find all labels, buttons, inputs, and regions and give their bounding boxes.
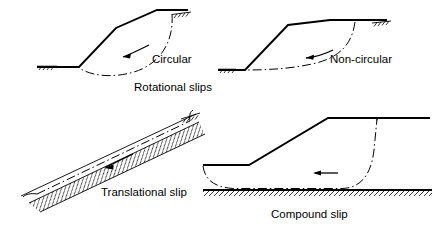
slope-failure-figure: Circular	[0, 0, 437, 231]
translational-bedrock-lower-edge	[40, 134, 205, 212]
non-circular-movement-arrow	[306, 50, 333, 60]
panel-circular: Circular	[37, 10, 192, 76]
panel-non-circular: Non-circular	[218, 20, 392, 73]
compound-ground-profile	[203, 118, 430, 165]
compound-movement-arrow	[313, 170, 338, 175]
non-circular-label: Non-circular	[330, 53, 392, 65]
translational-ground-surface	[21, 114, 196, 196]
panel-compound: Compound slip	[203, 118, 432, 220]
circular-ground-symbol-right	[172, 12, 191, 18]
translational-bedrock-fill	[29, 122, 205, 212]
panel-translational: Translational slip	[21, 110, 205, 212]
translational-slip-plane	[37, 121, 190, 194]
compound-hard-stratum	[203, 190, 432, 196]
non-circular-ground-symbol-right	[372, 21, 391, 27]
circular-ground-symbol-left	[37, 66, 57, 70]
rotational-slips-caption: Rotational slips	[134, 81, 212, 93]
translational-slip-label: Translational slip	[101, 186, 187, 198]
compound-slip-surface	[203, 119, 377, 189]
slope-failure-diagram: Circular	[0, 0, 437, 231]
non-circular-ground-symbol-left	[218, 69, 236, 73]
circular-movement-arrow	[123, 45, 149, 59]
compound-slip-label: Compound slip	[271, 208, 348, 220]
circular-label: Circular	[152, 53, 192, 65]
